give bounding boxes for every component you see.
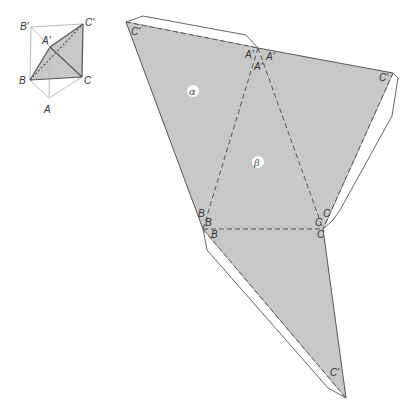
label-c: C xyxy=(84,75,92,86)
vertex-c-prime-top-left: C' xyxy=(131,26,141,37)
face-label-beta: β xyxy=(253,157,260,168)
net-figure: α β C' A' A' A' C' B B B C C C C' xyxy=(126,16,398,398)
vertex-c-lower: C xyxy=(317,229,325,240)
vertex-a-prime-left: A' xyxy=(244,49,255,60)
vertex-c-middle: C xyxy=(315,217,323,228)
vertex-b-upper: B xyxy=(198,208,205,219)
small-prism-figure: B' C' A' B C A xyxy=(19,17,95,115)
diagram-canvas: B' C' A' B C A xyxy=(0,0,414,411)
vertex-a-prime-right: A' xyxy=(265,51,276,62)
label-a-prime: A' xyxy=(41,35,52,46)
vertex-c-prime-right: C' xyxy=(379,72,389,83)
vertex-b-lower: B xyxy=(211,229,218,240)
label-b: B xyxy=(19,75,26,86)
vertex-b-middle: B xyxy=(205,217,212,228)
vertex-c-prime-bottom: C' xyxy=(330,367,340,378)
label-c-prime: C' xyxy=(85,17,95,28)
label-b-prime: B' xyxy=(20,21,30,32)
vertex-c-upper: C xyxy=(323,208,331,219)
vertex-a-prime-middle: A' xyxy=(253,61,264,72)
label-a: A xyxy=(43,104,51,115)
face-label-alpha: α xyxy=(189,86,196,97)
